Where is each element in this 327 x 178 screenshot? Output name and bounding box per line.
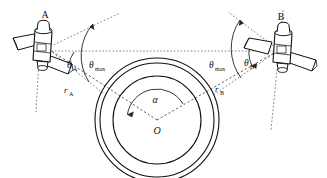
label-r-b: r B: [215, 84, 224, 96]
theta-max-b-arc: [231, 20, 241, 78]
label-satellite-a: A: [41, 9, 49, 20]
satellite-b-panel-left: [244, 38, 272, 54]
label-theta-a-symbol: θ: [67, 60, 72, 70]
label-theta-b-sub: B: [250, 64, 254, 70]
label-r-b-sub: B: [220, 90, 224, 96]
label-satellite-b: B: [278, 11, 285, 22]
satellite-a-antenna-dome: [37, 20, 50, 31]
satellite-a-nozzle: [38, 66, 48, 71]
theta-max-a-arrowhead: [90, 24, 95, 30]
label-r-a-sub: A: [69, 91, 74, 97]
satellite-b-panel-right: [287, 52, 316, 71]
label-r-a: r A: [64, 85, 74, 97]
label-r-b-symbol: r: [215, 84, 219, 94]
label-r-a-symbol: r: [64, 85, 68, 95]
satellite-b-antenna-dome: [277, 22, 290, 33]
label-theta-max-a-symbol: θ: [89, 60, 94, 70]
theta-max-b-arrowhead: [239, 20, 244, 26]
label-theta-a-sub: A: [73, 66, 78, 72]
label-theta-max-a: θ max: [89, 60, 105, 72]
label-theta-b: θ B: [244, 58, 254, 70]
radius-line-a: [47, 48, 157, 120]
label-center-o: O: [153, 125, 160, 136]
theta-max-a-arc: [81, 24, 93, 82]
label-theta-b-symbol: θ: [244, 58, 249, 68]
geometry-figure: A B O α θ A θ max θ max θ B r A: [0, 0, 327, 178]
cone-line-a-upper: [47, 13, 120, 48]
satellite-b-nozzle: [278, 68, 288, 73]
label-alpha: α: [152, 94, 158, 105]
satellite-a-instrument-panel: [37, 44, 46, 51]
satellite-b-instrument-panel: [277, 46, 286, 53]
label-theta-max-a-sub: max: [95, 66, 105, 72]
central-ring-group: [95, 58, 219, 178]
alpha-arrowhead: [127, 112, 133, 117]
label-theta-max-b-symbol: θ: [209, 60, 214, 70]
satellite-a-angles-group: [69, 24, 94, 82]
satellite-a: [13, 20, 73, 74]
label-theta-max-b-sub: max: [215, 66, 225, 72]
label-theta-a: θ A: [67, 60, 78, 72]
diagram-canvas: A B O α θ A θ max θ max θ B r A: [0, 0, 327, 178]
label-theta-max-b: θ max: [209, 60, 225, 72]
